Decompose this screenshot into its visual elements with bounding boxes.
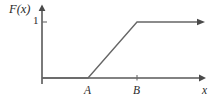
- y-tick-label-one: 1: [33, 15, 39, 26]
- cdf-curve: [42, 22, 198, 78]
- x-tick-label-a: A: [84, 85, 91, 97]
- x-axis-arrow-icon: [199, 74, 206, 81]
- y-axis-arrow-icon: [39, 5, 46, 12]
- cdf-figure: F(x) 1 A B x: [0, 0, 218, 103]
- x-tick-label-b: B: [133, 85, 140, 97]
- y-axis-label: F(x): [9, 3, 31, 16]
- cdf-curve-arrow-icon: [197, 19, 205, 25]
- x-axis-label: x: [202, 85, 207, 97]
